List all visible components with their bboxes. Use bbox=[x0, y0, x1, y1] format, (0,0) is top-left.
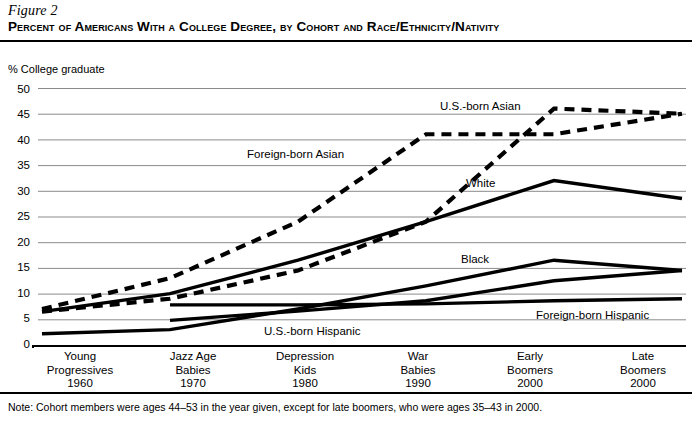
series-label-foreign-born-asian: Foreign-born Asian bbox=[247, 148, 344, 160]
y-tick-45: 45 bbox=[8, 109, 30, 121]
y-tick-25: 25 bbox=[8, 211, 30, 223]
series-u-s-born-asian bbox=[42, 109, 682, 312]
figure-note: Note: Cohort members were ages 44–53 in … bbox=[8, 401, 542, 413]
x-category-0-line2: Progressives bbox=[20, 364, 140, 378]
y-tick-30: 30 bbox=[8, 186, 30, 198]
x-category-4: Early Boomers 2000 bbox=[470, 350, 590, 391]
chart-svg bbox=[38, 88, 686, 345]
y-tick-10: 10 bbox=[8, 288, 30, 300]
x-category-3: War Babies 1990 bbox=[358, 350, 478, 391]
y-tick-35: 35 bbox=[8, 160, 30, 172]
x-axis-tick-origin bbox=[32, 345, 34, 348]
x-category-4-line2: Boomers bbox=[470, 364, 590, 378]
footer-rule bbox=[0, 392, 692, 394]
x-axis-line bbox=[32, 345, 686, 347]
x-category-1: Jazz Age Babies 1970 bbox=[133, 350, 253, 391]
series-label-black: Black bbox=[461, 253, 489, 265]
x-category-5-line3: 2000 bbox=[583, 377, 692, 391]
figure-number: Figure 2 bbox=[8, 3, 58, 19]
series-label-us-born-hispanic: U.S.-born Hispanic bbox=[264, 325, 361, 337]
x-category-2-line1: Depression bbox=[245, 350, 365, 364]
x-category-1-line3: 1970 bbox=[133, 377, 253, 391]
y-tick-40: 40 bbox=[8, 135, 30, 147]
x-category-3-line2: Babies bbox=[358, 364, 478, 378]
x-category-5: Late Boomers 2000 bbox=[583, 350, 692, 391]
y-axis-title: % College graduate bbox=[8, 63, 105, 75]
y-tick-15: 15 bbox=[8, 262, 30, 274]
x-category-2-line3: 1980 bbox=[245, 377, 365, 391]
y-tick-50: 50 bbox=[8, 84, 30, 96]
x-category-3-line3: 1990 bbox=[358, 377, 478, 391]
header-rule bbox=[0, 40, 692, 42]
y-tick-20: 20 bbox=[8, 237, 30, 249]
x-category-2-line2: Kids bbox=[245, 364, 365, 378]
y-tick-0: 0 bbox=[8, 339, 30, 351]
x-category-5-line1: Late bbox=[583, 350, 692, 364]
x-category-0-line3: 1960 bbox=[20, 377, 140, 391]
x-category-4-line1: Early bbox=[470, 350, 590, 364]
series-label-foreign-born-hispanic: Foreign-born Hispanic bbox=[536, 309, 649, 321]
x-category-4-line3: 2000 bbox=[470, 377, 590, 391]
x-category-1-line2: Babies bbox=[133, 364, 253, 378]
plot-area bbox=[38, 88, 686, 345]
x-category-0-line1: Young bbox=[20, 350, 140, 364]
x-category-0: Young Progressives 1960 bbox=[20, 350, 140, 391]
figure-2-chart: Figure 2 Percent of Americans With a Col… bbox=[0, 0, 692, 423]
x-category-3-line1: War bbox=[358, 350, 478, 364]
x-category-5-line2: Boomers bbox=[583, 364, 692, 378]
x-category-2: Depression Kids 1980 bbox=[245, 350, 365, 391]
series-label-white: White bbox=[466, 177, 495, 189]
series-label-us-born-asian: U.S.-born Asian bbox=[440, 100, 521, 112]
y-tick-5: 5 bbox=[8, 313, 30, 325]
x-category-1-line1: Jazz Age bbox=[133, 350, 253, 364]
figure-title: Percent of Americans With a College Degr… bbox=[8, 19, 499, 34]
series-lines bbox=[42, 109, 682, 334]
